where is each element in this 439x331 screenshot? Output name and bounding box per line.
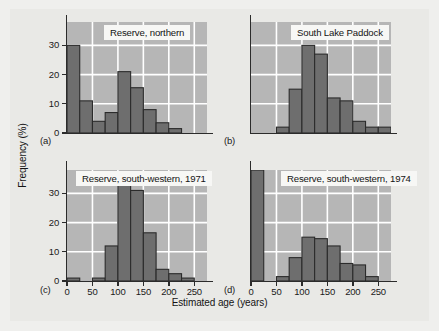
panel-d: 050100150200250 (d) Reserve, south-weste… bbox=[218, 157, 429, 307]
y-tick-label: 20 bbox=[31, 69, 59, 80]
y-tick-mark bbox=[62, 132, 67, 133]
y-tick-label: 30 bbox=[31, 187, 59, 198]
y-axis-line-b bbox=[250, 15, 251, 133]
y-tick-mark bbox=[62, 74, 67, 75]
histogram-bar bbox=[67, 45, 80, 133]
histogram-bar bbox=[302, 45, 315, 133]
panel-title-b: South Lake Paddock bbox=[291, 25, 389, 40]
y-axis-line-d bbox=[250, 161, 251, 281]
x-axis-line-b bbox=[250, 133, 397, 134]
histogram-bar bbox=[289, 258, 302, 281]
histogram-bar bbox=[105, 113, 118, 133]
histogram-bar bbox=[315, 239, 328, 281]
y-tick-label: 30 bbox=[31, 39, 59, 50]
x-tick-label: 250 bbox=[179, 286, 209, 297]
y-tick-label: 10 bbox=[31, 246, 59, 257]
panel-c: 0102030 050100150200250 (c) Reserve, sou… bbox=[10, 157, 220, 307]
x-tick-label: 250 bbox=[363, 286, 393, 297]
histogram-bar bbox=[131, 190, 144, 281]
y-tick-mark bbox=[62, 45, 67, 46]
y-tick-mark bbox=[62, 103, 67, 104]
histogram-bar bbox=[353, 265, 366, 281]
histogram-bar bbox=[327, 246, 340, 281]
y-tick-label: 10 bbox=[31, 98, 59, 109]
panel-a: 0102030 (a) Reserve, northern bbox=[10, 9, 220, 159]
histogram-bar bbox=[340, 263, 353, 281]
histogram-svg-d bbox=[251, 170, 391, 281]
histogram-bar bbox=[105, 246, 118, 281]
x-axis-line-a bbox=[66, 133, 213, 134]
panel-letter-a: (a) bbox=[40, 135, 51, 146]
figure-canvas: 0102030 (a) Reserve, northern (b) South … bbox=[0, 0, 439, 331]
histogram-bar bbox=[353, 121, 366, 133]
x-axis-title: Estimated age (years) bbox=[0, 297, 439, 308]
plot-area-c bbox=[67, 170, 207, 281]
histogram-svg-c bbox=[67, 170, 207, 281]
figure-inner-panel: 0102030 (a) Reserve, northern (b) South … bbox=[10, 9, 429, 321]
histogram-bar bbox=[143, 233, 156, 281]
y-tick-label: 20 bbox=[31, 217, 59, 228]
histogram-bar bbox=[118, 183, 131, 281]
panel-title-c: Reserve, south-western, 1971 bbox=[76, 171, 212, 186]
histogram-bar bbox=[143, 110, 156, 133]
panel-letter-b: (b) bbox=[224, 135, 235, 146]
y-tick-mark bbox=[62, 251, 67, 252]
histogram-bar bbox=[118, 72, 131, 133]
histogram-bar bbox=[92, 121, 105, 133]
histogram-bar bbox=[340, 101, 353, 133]
x-axis-line-d bbox=[250, 281, 397, 282]
y-axis-title: Frequency (%) bbox=[17, 86, 28, 226]
histogram-bar bbox=[327, 98, 340, 133]
x-axis-line-c bbox=[66, 281, 213, 282]
histogram-bar bbox=[156, 269, 169, 281]
histogram-bar bbox=[156, 123, 169, 133]
histogram-bar bbox=[80, 101, 93, 133]
plot-area-d bbox=[251, 170, 391, 281]
panel-letter-c: (c) bbox=[40, 284, 50, 295]
histogram-bar bbox=[302, 237, 315, 281]
y-tick-mark bbox=[62, 193, 67, 194]
histogram-bar bbox=[251, 170, 264, 281]
histogram-bar bbox=[289, 89, 302, 133]
panel-b: (b) South Lake Paddock bbox=[218, 9, 429, 159]
histogram-bar bbox=[315, 54, 328, 133]
histogram-bar bbox=[131, 88, 144, 133]
panel-title-a: Reserve, northern bbox=[104, 25, 190, 40]
y-tick-mark bbox=[62, 222, 67, 223]
panel-letter-d: (d) bbox=[224, 284, 235, 295]
panel-title-d: Reserve, south-western, 1974 bbox=[281, 171, 417, 186]
